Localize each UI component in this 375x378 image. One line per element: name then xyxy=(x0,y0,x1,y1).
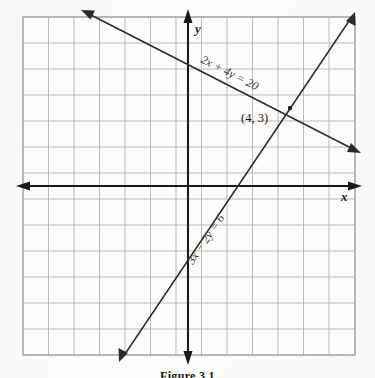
intersection-point-label: (4, 3) xyxy=(241,111,268,125)
coordinate-plane-figure: x y (4, 3) 2x + 4y = 20 3x − 2y = 6 Figu… xyxy=(0,0,375,378)
x-axis-label: x xyxy=(340,189,348,204)
figure-page: x y (4, 3) 2x + 4y = 20 3x − 2y = 6 Figu… xyxy=(0,0,375,378)
y-axis-label: y xyxy=(193,21,201,36)
y-axis-bottom-arrowhead xyxy=(184,351,193,365)
intersection-point-marker xyxy=(288,106,292,110)
y-axis-top-arrowhead xyxy=(184,9,193,23)
figure-caption: Figure 3.1 xyxy=(0,369,375,378)
graph-svg: x y (4, 3) 2x + 4y = 20 3x − 2y = 6 xyxy=(0,0,375,378)
